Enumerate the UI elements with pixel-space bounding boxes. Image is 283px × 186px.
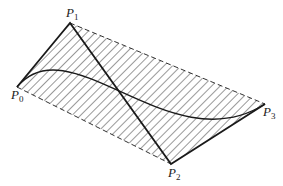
label-p1: P1 [66, 6, 78, 22]
label-p2: P2 [168, 166, 180, 182]
convex-hull-hatch [17, 23, 265, 164]
label-p3: P3 [263, 105, 275, 121]
label-p0: P0 [11, 88, 23, 104]
bezier-diagram [0, 0, 283, 186]
